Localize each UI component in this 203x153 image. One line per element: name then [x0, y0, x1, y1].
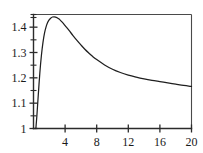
chart-figure: 11.11.21.31.4 48121620: [0, 0, 203, 153]
x-axis-tick-label: 4: [62, 135, 68, 149]
line-chart: 11.11.21.31.4 48121620: [0, 0, 203, 153]
x-axis-tick-label: 16: [154, 135, 166, 149]
y-axis-tick-label: 1.2: [12, 71, 27, 85]
x-axis-tick-label: 20: [186, 135, 198, 149]
chart-background: [0, 0, 203, 153]
y-axis-tick-label: 1.4: [12, 20, 27, 34]
y-axis-tick-label: 1: [21, 122, 27, 136]
x-axis-tick-label: 8: [94, 135, 100, 149]
y-axis-tick-label: 1.3: [12, 46, 27, 60]
y-axis-tick-label: 1.1: [12, 96, 27, 110]
x-axis-tick-label: 12: [122, 135, 134, 149]
